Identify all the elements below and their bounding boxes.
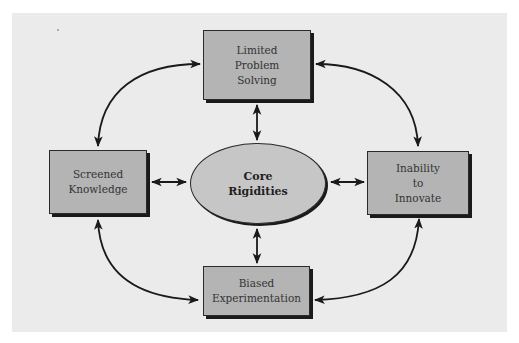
node-label-line: Knowledge [68,182,127,197]
node-label-line: Solving [237,73,277,88]
node-label-line: Inability [396,161,440,176]
node-core-rigidities: Core Rigidities [190,143,326,224]
curved-arrow-knowledge-problem [98,64,200,146]
diagram-canvas: Limited Problem Solving Screened Knowled… [0,0,519,343]
node-label-line: to [413,176,424,191]
node-screened-knowledge: Screened Knowledge [49,150,147,214]
center-label-line: Rigidities [228,184,288,199]
node-label-line: Limited [237,43,278,58]
center-label-line: Core [244,169,273,184]
node-label-line: Experimentation [212,291,301,306]
curved-arrow-innovate-experimentation [315,219,419,300]
node-biased-experimentation: Biased Experimentation [203,266,310,316]
curved-arrow-problem-innovate [316,64,418,146]
node-label-line: Screened [73,167,123,182]
node-inability-to-innovate: Inability to Innovate [367,151,469,215]
node-limited-problem-solving: Limited Problem Solving [203,30,311,100]
curved-arrow-experimentation-knowledge [98,220,198,300]
node-label-line: Problem [235,58,280,73]
node-label-line: Innovate [395,191,442,206]
node-label-line: Biased [239,276,275,291]
